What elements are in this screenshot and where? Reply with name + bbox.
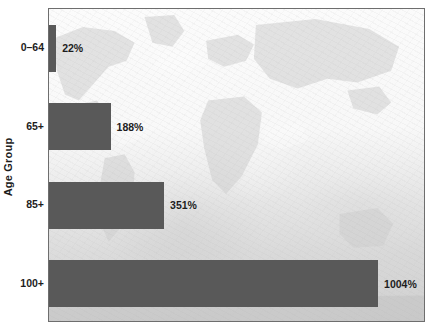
bar-value-label-3: 1004% xyxy=(384,278,417,290)
bar-value-label-2: 351% xyxy=(170,199,197,211)
y-tick-label-0: 0–64 xyxy=(21,41,44,53)
bar-chart: Age Group 0–64 65+ 85+ 100+ xyxy=(0,0,435,333)
bar-0 xyxy=(49,25,56,72)
y-axis-title: Age Group xyxy=(0,0,16,333)
bars-layer: 22% 188% 351% 1004% xyxy=(49,9,424,321)
bar-3 xyxy=(49,260,378,307)
bar-value-label-1: 188% xyxy=(117,121,144,133)
y-axis-tick-labels: 0–64 65+ 85+ 100+ xyxy=(16,8,48,322)
plot-area: 22% 188% 351% 1004% xyxy=(48,8,425,322)
y-tick-label-1: 65+ xyxy=(26,120,44,132)
bar-value-label-0: 22% xyxy=(62,42,83,54)
y-axis-title-text: Age Group xyxy=(2,137,14,196)
y-tick-label-3: 100+ xyxy=(20,277,44,289)
y-tick-label-2: 85+ xyxy=(26,198,44,210)
bar-1 xyxy=(49,103,111,150)
bar-2 xyxy=(49,182,164,229)
